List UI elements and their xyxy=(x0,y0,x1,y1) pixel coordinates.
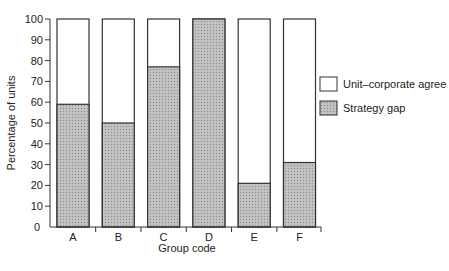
legend: Unit–corporate agree Strategy gap xyxy=(320,77,446,115)
bar-e xyxy=(238,19,270,227)
legend-label-agree: Unit–corporate agree xyxy=(343,78,446,90)
y-axis: 0102030405060708090100 xyxy=(25,13,50,233)
bar-segment-gap xyxy=(148,67,180,227)
x-tick-label: E xyxy=(251,231,258,243)
y-tick-label: 80 xyxy=(31,55,43,67)
bar-segment-gap xyxy=(238,183,270,227)
stacked-bar-chart: 0102030405060708090100 ABCDEF Percentage… xyxy=(0,0,449,271)
y-tick-label: 40 xyxy=(31,138,43,150)
y-axis-title: Percentage of units xyxy=(5,75,17,170)
x-tick-label: F xyxy=(296,231,303,243)
x-tick-label: A xyxy=(69,231,77,243)
legend-swatch-gap xyxy=(320,101,337,115)
bar-c xyxy=(148,19,180,227)
bar-d xyxy=(193,19,225,227)
bar-segment-gap xyxy=(193,19,225,227)
bar-segment-gap xyxy=(284,163,316,227)
y-tick-label: 70 xyxy=(31,75,43,87)
x-axis: ABCDEF xyxy=(50,227,321,243)
y-tick-label: 50 xyxy=(31,117,43,129)
y-tick-label: 10 xyxy=(31,200,43,212)
bars xyxy=(57,19,316,227)
legend-label-gap: Strategy gap xyxy=(343,102,405,114)
x-tick-label: B xyxy=(115,231,122,243)
bar-b xyxy=(102,19,134,227)
y-tick-label: 20 xyxy=(31,179,43,191)
y-tick-label: 60 xyxy=(31,96,43,108)
bar-a xyxy=(57,19,89,227)
y-tick-label: 100 xyxy=(25,13,43,25)
y-tick-label: 90 xyxy=(31,34,43,46)
y-tick-label: 30 xyxy=(31,159,43,171)
bar-segment-gap xyxy=(57,104,89,227)
legend-swatch-agree xyxy=(320,77,337,91)
x-axis-title: Group code xyxy=(158,242,215,254)
bar-f xyxy=(284,19,316,227)
bar-segment-gap xyxy=(102,123,134,227)
y-tick-label: 0 xyxy=(34,221,40,233)
